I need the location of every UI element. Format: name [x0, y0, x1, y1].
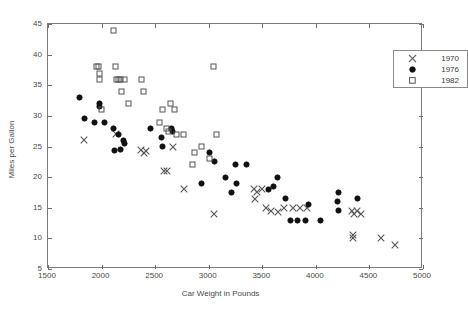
y-axis-tick — [48, 208, 52, 209]
data-point-1982 — [189, 161, 196, 168]
y-axis-tick-label: 35 — [18, 80, 42, 89]
x-marker-icon — [402, 54, 422, 63]
data-point-1982 — [213, 131, 220, 138]
legend-item-1976: 1976 — [394, 64, 467, 75]
data-point-1970 — [349, 234, 357, 242]
y-axis-tick — [419, 24, 423, 25]
data-point-1982 — [165, 128, 172, 135]
data-point-1982 — [121, 76, 128, 83]
y-axis-tick-label: 40 — [18, 49, 42, 58]
legend-label-1982: 1982 — [422, 76, 462, 85]
y-axis-tick-label: 45 — [18, 19, 42, 28]
x-axis-tick-label: 3000 — [199, 271, 217, 280]
data-point-1970 — [377, 234, 385, 242]
data-point-1976 — [243, 161, 250, 168]
data-point-1982 — [96, 76, 103, 83]
data-point-1982 — [191, 149, 198, 156]
plot-area: 1970 1976 1982 — [47, 23, 422, 268]
y-axis-tick — [419, 269, 423, 270]
y-axis-tick — [48, 85, 52, 86]
y-axis-tick — [48, 238, 52, 239]
y-axis-tick-label: 30 — [18, 110, 42, 119]
y-axis-tick — [419, 177, 423, 178]
data-point-1976 — [282, 195, 289, 202]
legend-item-1982: 1982 — [394, 75, 467, 86]
x-axis-tick — [155, 24, 156, 28]
y-axis-tick — [48, 24, 52, 25]
x-axis-tick-label: 4000 — [306, 271, 324, 280]
y-axis-title: Miles per Gallon — [7, 95, 16, 205]
data-point-1982 — [125, 100, 132, 107]
data-point-1976 — [274, 174, 281, 181]
x-axis-tick — [316, 265, 317, 269]
data-point-1976 — [198, 180, 205, 187]
data-point-1982 — [118, 88, 125, 95]
data-point-1982 — [98, 106, 105, 113]
data-point-1970 — [391, 241, 399, 249]
legend-box: 1970 1976 1982 — [393, 50, 468, 88]
y-axis-tick-label: 20 — [18, 172, 42, 181]
x-axis-tick — [369, 265, 370, 269]
data-point-1976 — [294, 217, 301, 224]
data-point-1976 — [76, 94, 83, 101]
x-axis-tick-label: 4500 — [360, 271, 378, 280]
data-point-1976 — [117, 146, 124, 153]
data-point-1976 — [335, 189, 342, 196]
data-point-1976 — [121, 140, 128, 147]
data-point-1982 — [140, 88, 147, 95]
x-axis-tick-label: 1500 — [38, 271, 56, 280]
y-axis-tick — [419, 208, 423, 209]
data-point-1982 — [173, 131, 180, 138]
data-point-1976 — [354, 195, 361, 202]
data-point-1982 — [96, 70, 103, 77]
legend-item-1970: 1970 — [394, 53, 467, 64]
x-axis-tick-label: 3500 — [252, 271, 270, 280]
y-axis-tick-label: 25 — [18, 141, 42, 150]
data-point-1976 — [305, 201, 312, 208]
data-point-1976 — [334, 198, 341, 205]
data-point-1976 — [159, 143, 166, 150]
data-point-1982 — [198, 143, 205, 150]
data-point-1982 — [112, 63, 119, 70]
filled-circle-icon — [402, 65, 422, 74]
x-axis-tick — [102, 265, 103, 269]
data-point-1982 — [210, 63, 217, 70]
data-point-1976 — [317, 217, 324, 224]
data-point-1976 — [101, 119, 108, 126]
x-axis-tick — [102, 24, 103, 28]
data-point-1976 — [158, 134, 165, 141]
y-axis-tick — [48, 116, 52, 117]
data-point-1982 — [110, 27, 117, 34]
data-point-1976 — [287, 217, 294, 224]
data-point-1982 — [138, 76, 145, 83]
data-point-1982 — [171, 106, 178, 113]
legend-label-1976: 1976 — [422, 65, 462, 74]
x-axis-tick — [423, 265, 424, 269]
x-axis-tick — [423, 24, 424, 28]
data-point-1982 — [180, 131, 187, 138]
data-point-1970 — [80, 136, 88, 144]
data-point-1976 — [91, 119, 98, 126]
x-axis-title: Car Weight in Pounds — [0, 289, 441, 298]
data-point-1976 — [270, 183, 277, 190]
x-axis-tick-label: 5000 — [413, 271, 431, 280]
data-point-1970 — [180, 185, 188, 193]
x-axis-tick — [209, 24, 210, 28]
data-point-1970 — [210, 210, 218, 218]
data-point-1976 — [232, 161, 239, 168]
x-axis-tick — [262, 265, 263, 269]
y-axis-tick-label: 15 — [18, 202, 42, 211]
x-axis-tick-label: 2000 — [92, 271, 110, 280]
x-axis-tick — [262, 24, 263, 28]
data-point-1976 — [147, 125, 154, 132]
y-axis-tick — [48, 55, 52, 56]
data-point-1970 — [142, 147, 150, 155]
data-point-1976 — [233, 180, 240, 187]
data-point-1976 — [81, 115, 88, 122]
data-point-1982 — [206, 155, 213, 162]
legend-label-1970: 1970 — [422, 54, 462, 63]
y-axis-tick — [419, 116, 423, 117]
data-point-1970 — [163, 167, 171, 175]
y-axis-tick-label: 10 — [18, 233, 42, 242]
